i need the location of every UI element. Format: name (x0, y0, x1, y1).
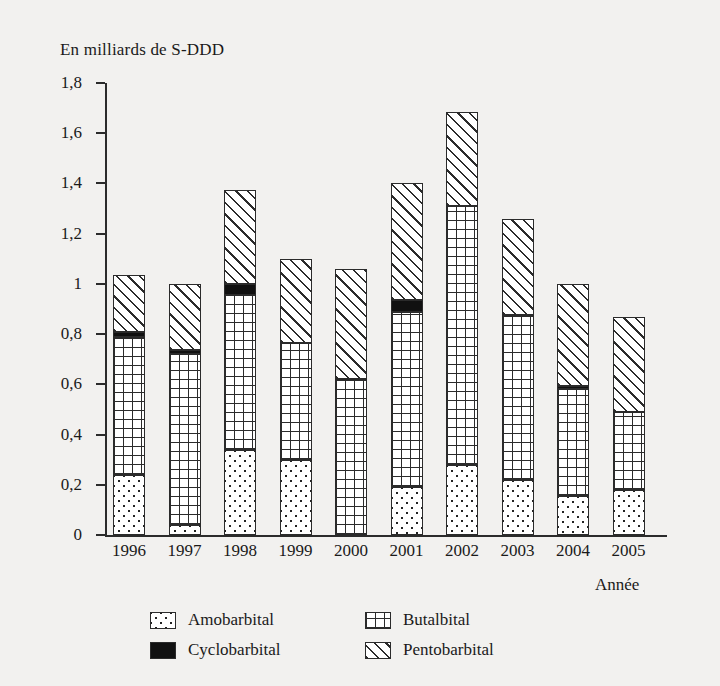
bar-segment-but (335, 379, 367, 535)
y-tick-1-6: 1,6 (96, 132, 105, 134)
bar-segment-amo (613, 490, 645, 535)
bar-segment-cyc (169, 350, 201, 354)
x-tick-label-1997: 1997 (153, 541, 217, 561)
bar-segment-amo (169, 525, 201, 535)
bar-segment-pen (113, 275, 145, 332)
chart-legend: AmobarbitalButalbitalCyclobarbitalPentob… (150, 610, 580, 660)
y-tick-1: 1 (96, 283, 105, 285)
legend-item-pen: Pentobarbital (365, 640, 580, 660)
bar-segment-pen (446, 112, 478, 206)
y-axis-line (105, 83, 107, 535)
y-tick-label: 0 (74, 525, 83, 545)
bar-2004 (557, 83, 589, 535)
bar-1998 (224, 83, 256, 535)
bar-2001 (391, 83, 423, 535)
y-tick-label: 0,2 (61, 475, 82, 495)
y-tick-label: 0,4 (61, 425, 82, 445)
y-tick-label: 1,4 (61, 173, 82, 193)
bar-segment-cyc (224, 284, 256, 295)
legend-label: Amobarbital (188, 610, 274, 630)
y-tick-1-2: 1,2 (96, 233, 105, 235)
x-axis-line (105, 535, 667, 537)
bar-1997 (169, 83, 201, 535)
bar-segment-amo (280, 460, 312, 535)
bar-segment-pen (391, 183, 423, 300)
legend-item-cyc: Cyclobarbital (150, 640, 365, 660)
x-tick-label-2002: 2002 (430, 541, 494, 561)
y-tick-0-6: 0,6 (96, 383, 105, 385)
x-tick-label-2004: 2004 (541, 541, 605, 561)
bar-segment-pen (502, 219, 534, 316)
x-tick-label-2005: 2005 (597, 541, 661, 561)
bar-segment-amo (391, 487, 423, 535)
x-tick-label-2000: 2000 (319, 541, 383, 561)
bar-2002 (446, 83, 478, 535)
legend-label: Pentobarbital (403, 640, 494, 660)
x-tick-label-2001: 2001 (375, 541, 439, 561)
bar-segment-cyc (113, 332, 145, 337)
bar-2005 (613, 83, 645, 535)
bar-segment-but (613, 412, 645, 490)
bar-segment-pen (224, 190, 256, 284)
bar-segment-cyc (557, 386, 589, 390)
bar-segment-amo (113, 475, 145, 535)
bar-segment-but (224, 295, 256, 449)
bar-2003 (502, 83, 534, 535)
bar-1996 (113, 83, 145, 535)
legend-swatch-pen (365, 642, 391, 659)
bar-segment-but (502, 315, 534, 479)
y-tick-label: 1,8 (61, 73, 82, 93)
legend-swatch-cyc (150, 642, 176, 659)
bar-1999 (280, 83, 312, 535)
legend-label: Cyclobarbital (188, 640, 281, 660)
bar-segment-amo (446, 465, 478, 535)
y-tick-0-8: 0,8 (96, 333, 105, 335)
bar-segment-but (169, 354, 201, 525)
y-tick-label: 1 (74, 274, 83, 294)
y-tick-0-2: 0,2 (96, 484, 105, 486)
legend-swatch-amo (150, 612, 176, 629)
legend-item-amo: Amobarbital (150, 610, 365, 630)
y-tick-label: 0,8 (61, 324, 82, 344)
bar-segment-amo (502, 480, 534, 535)
y-tick-0-4: 0,4 (96, 434, 105, 436)
chart-page: En milliards de S-DDD 00,20,40,60,811,21… (0, 0, 720, 686)
x-axis-title: Année (595, 575, 639, 595)
bar-segment-pen (335, 269, 367, 379)
y-tick-label: 0,6 (61, 374, 82, 394)
bar-segment-but (391, 312, 423, 488)
bar-segment-but (446, 206, 478, 465)
bar-segment-pen (280, 259, 312, 343)
chart-axis-title: En milliards de S-DDD (60, 40, 224, 60)
legend-item-but: Butalbital (365, 610, 580, 630)
bar-segment-cyc (391, 300, 423, 311)
bar-2000 (335, 83, 367, 535)
x-tick-label-2003: 2003 (486, 541, 550, 561)
plot-area: 00,20,40,60,811,21,41,61,8 1996199719981… (105, 83, 665, 535)
x-tick-label-1998: 1998 (208, 541, 272, 561)
bar-segment-pen (613, 317, 645, 412)
x-tick-label-1996: 1996 (97, 541, 161, 561)
bar-segment-but (280, 343, 312, 460)
x-tick-label-1999: 1999 (264, 541, 328, 561)
y-tick-label: 1,2 (61, 224, 82, 244)
bar-segment-amo (557, 496, 589, 535)
bar-segment-but (113, 337, 145, 475)
y-tick-1-8: 1,8 (96, 82, 105, 84)
y-tick-label: 1,6 (61, 123, 82, 143)
bar-segment-but (557, 389, 589, 496)
y-tick-0: 0 (96, 534, 105, 536)
bar-segment-pen (557, 284, 589, 386)
bar-segment-amo (224, 450, 256, 535)
y-tick-1-4: 1,4 (96, 182, 105, 184)
bar-segment-pen (169, 284, 201, 351)
legend-swatch-but (365, 612, 391, 629)
legend-label: Butalbital (403, 610, 470, 630)
